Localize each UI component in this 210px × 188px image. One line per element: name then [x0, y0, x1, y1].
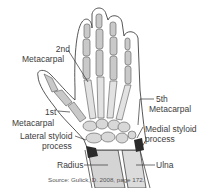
- hand-anatomy-diagram: 2nd Metacarpal 5th Metacarpal 1st Metaca…: [0, 0, 210, 188]
- label-lateral-styloid-line1: Lateral styloid: [20, 131, 72, 141]
- source-citation: Source: Gulick, D. 2008, page 172.: [48, 176, 144, 183]
- label-radius: Radius: [57, 160, 83, 170]
- label-2nd-metacarpal-line2: Metacarpal: [22, 54, 64, 64]
- hand-skeleton-illustration: [0, 0, 210, 188]
- label-ulna: Ulna: [156, 160, 173, 170]
- label-medial-styloid-line2: process: [145, 134, 175, 144]
- label-1st-metacarpal-line1: 1st: [45, 107, 56, 117]
- label-medial-styloid-line1: Medial styloid: [145, 124, 197, 134]
- label-1st-metacarpal-line2: Metacarpal: [12, 118, 54, 128]
- label-2nd-metacarpal-line1: 2nd: [40, 44, 70, 54]
- label-lateral-styloid-line2: process: [42, 141, 72, 151]
- label-5th-metacarpal-line2: Metacarpal: [149, 104, 191, 114]
- label-5th-metacarpal-line1: 5th: [156, 94, 168, 104]
